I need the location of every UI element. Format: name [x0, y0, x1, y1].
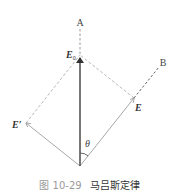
projection-dashed-left [26, 55, 80, 123]
figure-number: 图 10-29 [39, 180, 81, 191]
theta-angle-arc [80, 153, 88, 156]
figure-title: 马吕斯定律 [90, 180, 140, 191]
e-prime-label: E′ [11, 119, 22, 130]
axis-b-dashed-line [134, 67, 159, 98]
axis-b-label: B [160, 57, 167, 68]
figure-caption: 图 10-29马吕斯定律 [0, 177, 179, 192]
theta-label: θ [85, 138, 90, 149]
axis-a-label: A [76, 17, 84, 28]
e-label: E [134, 102, 142, 113]
e0-label: E0 [65, 49, 76, 61]
projection-dashed-right [80, 55, 134, 98]
vector-e-prime [26, 123, 80, 166]
malus-law-diagram: A B E0 E E′ θ [0, 0, 179, 195]
